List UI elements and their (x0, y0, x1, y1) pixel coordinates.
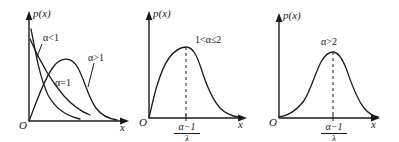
leader-line-alpha-gt-1 (88, 63, 94, 87)
mode-tick-label: α−1 λ (174, 122, 200, 141)
curve-label-alpha-eq-1: α=1 (55, 78, 71, 88)
mode-label-denominator: λ (174, 134, 200, 142)
x-axis-label: x (238, 119, 243, 130)
curve-label-alpha-gt-2: α>2 (321, 37, 337, 47)
curve-label-alpha-between-1-and-2: 1<α≤2 (195, 35, 221, 45)
panel-2-plot (133, 0, 266, 141)
gamma-density-shape-figure: p(x) x O α<1 α=1 α>1 p(x) x O 1<α≤2 (0, 0, 399, 141)
curve-label-alpha-gt-1: α>1 (88, 53, 104, 63)
curve-label-alpha-lt-1: α<1 (43, 33, 59, 43)
y-axis (276, 13, 283, 118)
mode-tick-label: α−1 λ (321, 122, 347, 141)
panel-3-plot (263, 0, 399, 141)
curve-alpha-gt-2 (279, 52, 378, 117)
curve-alpha-gt-1 (29, 59, 117, 121)
panel-alpha-gt-2: p(x) x O α>2 α−1 λ (263, 0, 399, 141)
origin-label: O (19, 120, 27, 131)
mode-label-denominator: λ (321, 134, 347, 142)
y-axis-label: p(x) (283, 10, 301, 21)
y-axis-label: p(x) (153, 8, 171, 19)
curve-alpha-between-1-and-2 (149, 47, 238, 118)
panel-alpha-comparison: p(x) x O α<1 α=1 α>1 (0, 0, 136, 141)
y-axis (146, 11, 153, 118)
mode-label-numerator: α−1 (174, 122, 200, 134)
x-axis-label: x (120, 122, 125, 133)
leader-line-alpha-lt-1 (37, 44, 42, 57)
y-axis (26, 11, 33, 121)
y-axis-label: p(x) (33, 8, 51, 19)
mode-label-numerator: α−1 (321, 122, 347, 134)
panel-alpha-between-1-and-2: p(x) x O 1<α≤2 α−1 λ (133, 0, 266, 141)
origin-label: O (269, 117, 277, 128)
x-axis-label: x (371, 119, 376, 130)
origin-label: O (139, 117, 147, 128)
